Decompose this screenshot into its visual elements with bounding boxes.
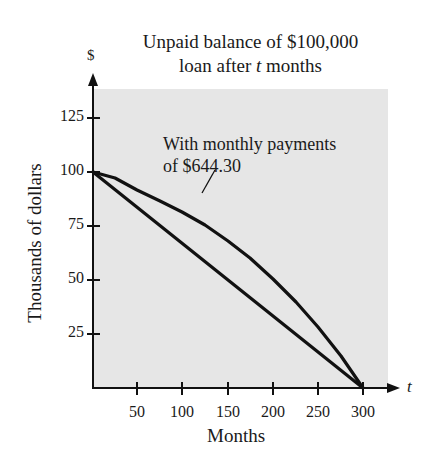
title-text: months [261, 55, 322, 76]
x-axis-arrow-icon [387, 383, 400, 393]
y-unit-label: $ [87, 47, 95, 64]
annotation-line-2: of $644.30 [163, 156, 241, 177]
x-axis-label: Months [207, 425, 265, 447]
y-tick-label: 125 [44, 107, 84, 125]
title-text: loan after [179, 55, 256, 76]
x-tick-label: 300 [343, 403, 383, 421]
y-tick-label: 50 [44, 269, 84, 287]
x-axis-variable: t [407, 377, 412, 397]
annotation-line-1: With monthly payments [163, 134, 336, 155]
y-axis-label: Thousands of dollars [24, 163, 46, 322]
x-tick-label: 50 [117, 403, 157, 421]
x-tick-label: 150 [208, 403, 248, 421]
y-tick-label: 100 [44, 161, 84, 179]
y-tick-label: 75 [44, 215, 84, 233]
x-tick-label: 200 [253, 403, 293, 421]
x-tick-label: 100 [162, 403, 202, 421]
x-tick-label: 250 [298, 403, 338, 421]
y-tick-label: 25 [44, 323, 84, 341]
